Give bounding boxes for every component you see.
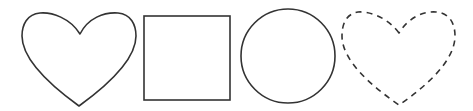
solid-heart-shape: [22, 13, 136, 106]
dashed-heart-shape: [342, 12, 455, 105]
square-shape: [144, 16, 230, 100]
circle-shape: [241, 9, 335, 103]
shapes-canvas: [0, 0, 473, 111]
